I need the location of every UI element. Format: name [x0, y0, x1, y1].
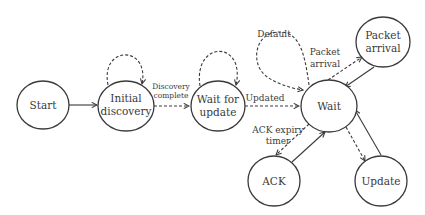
node-label-wfu-2: update: [200, 106, 237, 118]
edge-label-ack-2: timer: [266, 136, 291, 146]
node-label-wait: Wait: [317, 100, 341, 112]
edge-label-discovery-2: complete: [154, 91, 189, 100]
state-diagram: Start Initial discovery Wait for update …: [0, 0, 425, 215]
node-initial-discovery: Initial discovery: [98, 81, 154, 131]
edge-label-packet-1: Packet: [310, 47, 341, 57]
node-label-packet-1: Packet: [365, 29, 401, 41]
edge-label-updated: Updated: [245, 93, 284, 103]
edge-ack-to-wait: [292, 132, 325, 162]
node-wait-for-update: Wait for update: [191, 81, 245, 131]
node-label-ack: ACK: [261, 175, 286, 187]
node-packet-arrival: Packet arrival: [356, 17, 410, 67]
node-label-start: Start: [30, 99, 58, 111]
edge-update-to-wait: [355, 110, 381, 155]
node-label-wfu-1: Wait for: [197, 93, 240, 105]
node-label-initial-2: discovery: [101, 105, 152, 117]
edge-label-default: Default: [257, 29, 291, 39]
edge-label-discovery-1: Discovery: [152, 82, 190, 91]
node-label-initial-1: Initial: [110, 92, 142, 104]
node-label-update: Update: [362, 175, 401, 187]
node-label-packet-2: arrival: [365, 42, 401, 54]
node-start: Start: [17, 81, 69, 129]
edge-label-packet-2: arrival: [310, 59, 340, 69]
node-wait: Wait: [301, 80, 357, 132]
node-ack: ACK: [248, 156, 300, 206]
node-update: Update: [355, 156, 407, 206]
edge-packet-to-wait: [345, 67, 374, 87]
edge-wait-to-update: [346, 127, 365, 161]
edge-label-ack-1: ACK expiry: [251, 125, 304, 135]
edge-wait-self-loop: [257, 32, 309, 90]
